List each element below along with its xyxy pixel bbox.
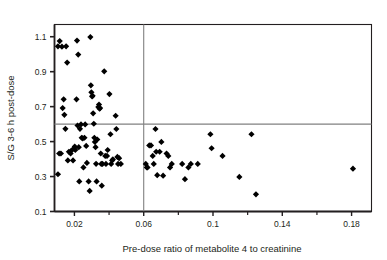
data-point (253, 191, 259, 197)
data-point (70, 157, 76, 163)
y-tick-label: 0.5 (35, 137, 47, 147)
x-axis-title: Pre-dose ratio of metabolite 4 to creati… (122, 243, 301, 254)
data-point (150, 153, 156, 159)
y-tick-label: 0.9 (35, 67, 47, 77)
y-tick-label: 0.3 (35, 172, 47, 182)
data-point (73, 96, 79, 102)
data-point (93, 178, 99, 184)
data-point (55, 171, 61, 177)
data-point (63, 43, 69, 49)
data-point (107, 131, 113, 137)
x-tick-label: 0.18 (343, 219, 360, 229)
data-point (61, 96, 67, 102)
chart-canvas: 0.020.060.10.140.180.10.30.50.70.91.1 Pr… (0, 0, 387, 260)
data-point (62, 126, 68, 132)
x-tick-label: 0.14 (274, 219, 291, 229)
data-point (57, 38, 63, 44)
data-point (160, 173, 166, 179)
data-point (99, 183, 105, 189)
data-point (87, 34, 93, 40)
data-point (80, 164, 86, 170)
data-point (106, 91, 112, 97)
data-point (101, 68, 107, 74)
data-point (91, 121, 97, 127)
data-point (60, 105, 66, 111)
axis-ticks (50, 37, 352, 216)
data-point (113, 126, 119, 132)
data-point (82, 121, 88, 127)
data-point (84, 160, 90, 166)
data-point (105, 147, 111, 153)
x-tick-label: 0.02 (66, 219, 83, 229)
data-point (179, 161, 185, 167)
data-point (350, 166, 356, 172)
x-tick-label: 0.1 (207, 219, 219, 229)
x-tick-label: 0.06 (135, 219, 152, 229)
data-point (154, 172, 160, 178)
y-tick-label: 1.1 (35, 32, 47, 42)
data-point (236, 174, 242, 180)
y-tick-label: 0.7 (35, 102, 47, 112)
data-point (61, 112, 67, 118)
data-point (76, 178, 82, 184)
data-point (113, 113, 119, 119)
data-point (88, 82, 94, 88)
tick-labels: 0.020.060.10.140.180.10.30.50.70.91.1 (35, 32, 360, 229)
data-point (195, 161, 201, 167)
data-point (64, 59, 70, 65)
data-point (90, 110, 96, 116)
scatter-plot-figure: 0.020.060.10.140.180.10.30.50.70.91.1 Pr… (0, 0, 387, 260)
y-tick-label: 0.1 (35, 207, 47, 217)
data-point (92, 144, 98, 150)
data-point (87, 188, 93, 194)
data-point (207, 131, 213, 137)
y-axis-title: S/G 3-6 h post-dose (5, 75, 16, 160)
data-point (158, 139, 164, 145)
data-point (152, 126, 158, 132)
data-point (74, 37, 80, 43)
data-point (151, 161, 157, 167)
data-point (83, 143, 89, 149)
data-point (86, 178, 92, 184)
data-point (248, 131, 254, 137)
data-point (93, 161, 99, 167)
data-point (219, 153, 225, 159)
data-point (182, 176, 188, 182)
data-point (157, 149, 163, 155)
data-points (55, 34, 356, 197)
data-point (75, 51, 81, 57)
data-point (209, 145, 215, 151)
